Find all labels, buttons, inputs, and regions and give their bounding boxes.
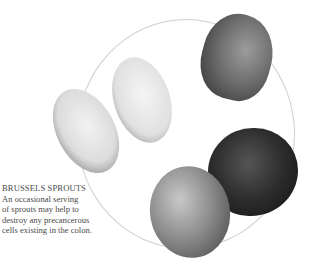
caption-line: destroy any precancerous (2, 215, 142, 226)
caption-line: An occasional serving (2, 194, 142, 205)
caption-title: BRUSSELS SPROUTS (2, 183, 142, 194)
caption: BRUSSELS SPROUTS An occasional serving o… (2, 183, 142, 236)
caption-line: cells existing in the colon. (2, 225, 142, 236)
caption-line: of sprouts may help to (2, 204, 142, 215)
